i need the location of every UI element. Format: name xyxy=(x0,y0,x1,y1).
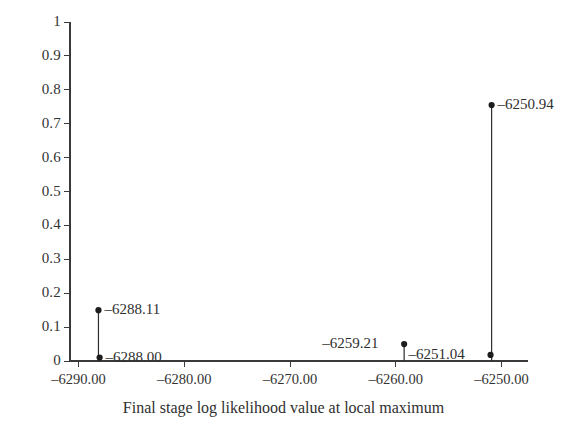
x-tick-label: –6250.00 xyxy=(447,372,557,387)
x-axis-title: Final stage log likelihood value at loca… xyxy=(0,399,567,417)
data-series-stems xyxy=(95,102,494,361)
x-tick-label: –6290.00 xyxy=(23,372,133,387)
marker-point-6288-00 xyxy=(97,355,103,361)
x-tick-label: –6270.00 xyxy=(235,372,345,387)
marker-point-6259-21 xyxy=(401,341,407,347)
y-tick-label: 0.7 xyxy=(8,116,61,131)
annotation-point-6251-04: –6251.04 xyxy=(409,347,465,362)
y-tick-label: 0.5 xyxy=(8,184,61,199)
y-tick-label: 0.6 xyxy=(8,150,61,165)
x-tick-label: –6260.00 xyxy=(341,372,451,387)
y-tick-label: 0.1 xyxy=(8,319,61,334)
y-tick-label: 1 xyxy=(8,14,61,29)
marker-point-6288-11 xyxy=(95,307,101,313)
annotation-point-6259-21: –6259.21 xyxy=(322,336,378,351)
y-tick-label: 0.2 xyxy=(8,285,61,300)
chart-figure: 00.10.20.30.40.50.60.70.80.91 –6290.00–6… xyxy=(0,0,567,439)
y-tick-label: 0.9 xyxy=(8,48,61,63)
y-tick-label: 0.4 xyxy=(8,217,61,232)
annotation-point-6288-11: –6288.11 xyxy=(104,302,160,317)
marker-point-6250-94 xyxy=(489,102,495,108)
annotation-point-6250-94: –6250.94 xyxy=(498,97,554,112)
annotation-point-6288-00: –6288.00 xyxy=(106,350,162,365)
y-tick-label: 0.8 xyxy=(8,82,61,97)
x-tick-label: –6280.00 xyxy=(129,372,239,387)
y-tick-label: 0.3 xyxy=(8,251,61,266)
y-tick-label: 0 xyxy=(8,353,61,368)
marker-point-6251-04 xyxy=(487,352,493,358)
